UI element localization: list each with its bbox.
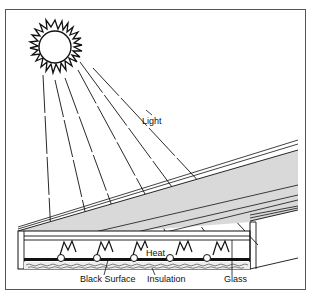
label-insulation: Insulation: [147, 274, 186, 284]
insulation-layer: [24, 262, 250, 269]
sun-icon: [30, 20, 82, 73]
label-glass: Glass: [224, 274, 247, 284]
label-black-surface: Black Surface: [80, 274, 136, 284]
label-light: Light: [142, 116, 162, 126]
label-heat: Heat: [146, 248, 165, 258]
diagram-frame: Light Heat Black Surface Insulation Glas…: [0, 0, 316, 301]
